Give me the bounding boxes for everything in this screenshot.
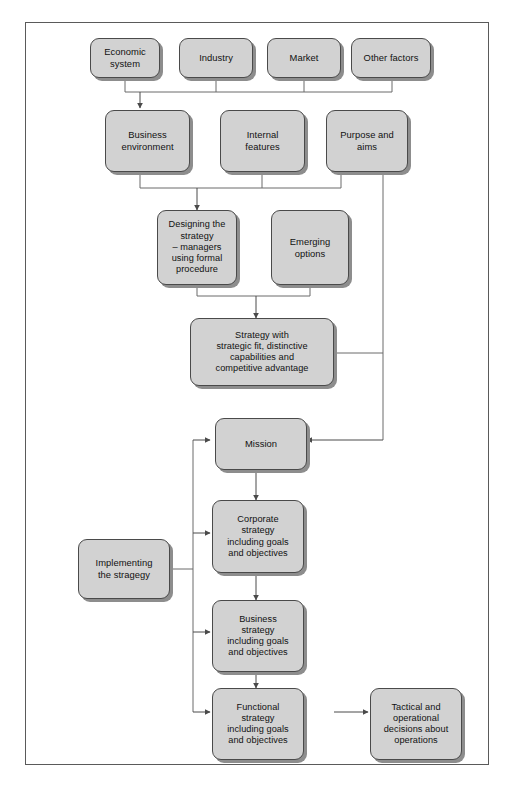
node-internal-features[interactable]: Internal features [220, 110, 305, 172]
node-economic-system[interactable]: Economic system [90, 38, 160, 78]
node-market[interactable]: Market [267, 38, 341, 78]
node-other-factors[interactable]: Other factors [351, 38, 431, 78]
node-business-environment[interactable]: Business environment [105, 110, 190, 172]
node-emerging-options[interactable]: Emerging options [271, 210, 349, 285]
node-implementing-the-strategy[interactable]: Implementing the stragegy [78, 539, 170, 599]
diagram-canvas: Economic system Industry Market Other fa… [0, 0, 511, 786]
node-business-strategy[interactable]: Business strategy including goals and ob… [212, 600, 304, 672]
node-designing-the-strategy[interactable]: Designing the strategy – managers using … [157, 210, 237, 285]
node-strategy-with-strategic-fit[interactable]: Strategy with strategic fit, distinctive… [190, 318, 334, 386]
node-tactical-operational-decisions[interactable]: Tactical and operational decisions about… [370, 688, 462, 760]
node-purpose-and-aims[interactable]: Purpose and aims [326, 110, 408, 172]
node-corporate-strategy[interactable]: Corporate strategy including goals and o… [212, 500, 304, 573]
node-industry[interactable]: Industry [179, 38, 253, 78]
node-mission[interactable]: Mission [215, 418, 307, 470]
node-functional-strategy[interactable]: Functional strategy including goals and … [212, 688, 304, 760]
